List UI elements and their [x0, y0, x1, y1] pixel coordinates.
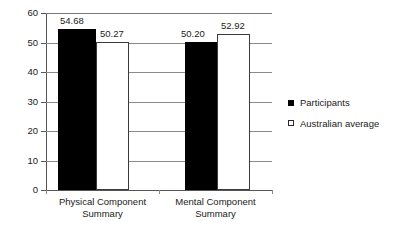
filled-square-icon — [288, 100, 294, 106]
category-label-line-2: Summary — [159, 208, 272, 220]
y-axis-label-60: 60 — [27, 8, 38, 18]
bars-layer — [46, 13, 272, 190]
value-label-average-mental: 52.92 — [221, 21, 245, 31]
y-axis-label-20: 20 — [27, 126, 38, 136]
y-axis-label-50: 50 — [27, 38, 38, 48]
category-label-line-1: Mental Component — [159, 196, 272, 208]
bar-chart: 60 50 40 30 20 10 0 — [0, 0, 400, 236]
value-label-participants-physical: 54.68 — [60, 16, 84, 26]
legend-label-australian-average: Australian average — [300, 119, 379, 129]
chart-legend: Participants Australian average — [288, 98, 379, 139]
y-axis-label-0: 0 — [33, 185, 38, 195]
category-label-line-2: Summary — [46, 208, 159, 220]
bar-participants-physical[interactable] — [58, 29, 96, 190]
value-label-average-physical: 50.27 — [100, 29, 124, 39]
legend-label-participants: Participants — [300, 98, 350, 108]
bar-australian-average-physical[interactable] — [96, 42, 129, 190]
value-label-participants-mental: 50.20 — [181, 29, 205, 39]
x-tick — [159, 190, 160, 194]
legend-item-participants[interactable]: Participants — [288, 98, 379, 108]
y-axis-label-10: 10 — [27, 156, 38, 166]
category-label-mental-component-summary: Mental Component Summary — [159, 196, 272, 220]
category-label-physical-component-summary: Physical Component Summary — [46, 196, 159, 220]
legend-item-australian-average[interactable]: Australian average — [288, 119, 379, 129]
open-square-icon — [288, 120, 294, 126]
bar-australian-average-mental[interactable] — [217, 34, 250, 190]
y-axis-label-30: 30 — [27, 97, 38, 107]
bar-participants-mental[interactable] — [185, 42, 217, 190]
x-tick — [46, 190, 47, 194]
x-tick — [272, 190, 273, 194]
y-axis-label-40: 40 — [27, 67, 38, 77]
category-label-line-1: Physical Component — [46, 196, 159, 208]
